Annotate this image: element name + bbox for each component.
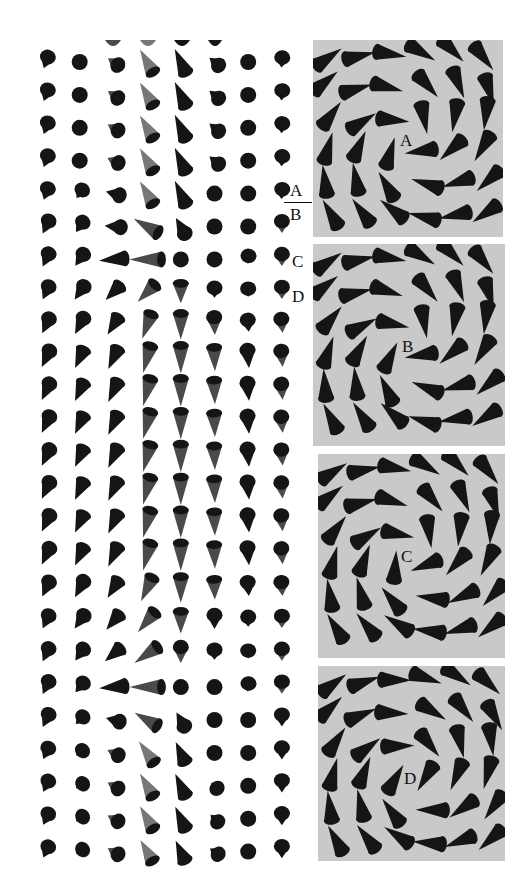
spin-cone [168,739,194,770]
spin-cone [240,811,256,827]
spin-cone [273,181,290,200]
vortex-cone [345,161,367,198]
vortex-cone [346,366,366,402]
spin-cone [35,505,60,535]
spin-cone [36,837,59,861]
spin-cone [173,341,189,373]
panel-label-c: C [401,548,412,565]
spin-cone [135,504,159,539]
vortex-cone [466,40,500,75]
spin-cone [173,607,189,633]
vortex-cone [471,162,503,197]
spin-cone [35,309,59,337]
spin-cone [173,572,189,602]
vortex-cone [468,332,500,370]
panel-label-d: D [404,770,416,787]
spin-cone [68,540,93,569]
spin-cone [130,212,166,242]
spin-cone [239,574,257,597]
spin-cone [132,604,164,638]
vortex-cone [406,409,444,434]
vortex-cone [450,511,470,547]
spin-cone [135,340,159,375]
vortex-cone [438,666,475,692]
vortex-cone [445,791,482,824]
vortex-cone [343,106,381,138]
vortex-cone [373,372,402,410]
vortex-cone [442,827,480,854]
spin-cone [206,474,223,503]
spin-cone [274,280,290,299]
vortex-cone [319,723,352,760]
spin-cone [240,712,256,728]
vortex-cone [321,544,345,581]
spin-cone [205,809,228,832]
vortex-cone [348,521,386,552]
spin-cone [173,506,189,538]
spin-cone [273,115,290,134]
vortex-cone [409,270,443,307]
spin-cone [104,841,129,864]
vortex-cone [440,544,475,580]
spin-cone [133,79,162,113]
vortex-cone [406,205,443,229]
vortex-cone [346,194,379,231]
vortex-cone [350,608,384,645]
spin-cone [273,442,291,467]
spin-cone [240,248,257,265]
spin-cone [240,676,257,693]
spin-cone [98,678,130,697]
vortex-cone [482,510,501,546]
spin-cone [239,507,257,533]
spin-cone [207,745,223,761]
vortex-cone [409,375,447,402]
spin-cone [72,806,94,828]
partial-cone [140,40,156,46]
spin-cone [35,606,58,632]
spin-cone [101,408,127,439]
vortex-cone [376,794,409,831]
vortex-cone [402,244,440,271]
vortex-cone [473,541,503,579]
vortex-cone [314,334,341,372]
spin-cone [273,343,291,368]
spin-cone [204,85,229,110]
vortex-cone [409,171,447,197]
spin-cone [35,277,58,303]
spin-cone [135,405,159,440]
side-label-d: D [292,288,304,305]
spin-cone [173,374,189,406]
spin-cone [240,219,256,235]
spin-cone [240,643,256,658]
spin-cone [101,539,127,570]
spin-cone [206,376,223,405]
spin-cone [133,144,162,178]
spin-cone [35,472,60,502]
vortex-cone [409,66,444,102]
spin-cone [68,507,93,536]
spin-cone [134,570,161,604]
vortex-cone [320,610,352,648]
vortex-cone [469,666,505,700]
spin-cone [69,639,94,666]
spin-cone [68,474,93,503]
spin-cone [133,46,162,80]
spin-cone [239,408,257,434]
spin-cone [71,740,93,762]
spin-cone [36,738,59,762]
vortex-cone [412,725,446,762]
spin-cone [68,605,94,633]
vortex-cone [349,575,374,612]
spin-cone [207,712,223,728]
vortex-cone [468,128,499,166]
vortex-cone [314,97,348,134]
vortex-cone [375,582,409,619]
vortex-cone [444,63,472,101]
spin-cone [35,440,60,470]
vortex-cone [476,754,500,791]
spin-cone [103,52,128,76]
spin-cone [207,251,223,267]
vortex-cone [414,480,448,517]
spin-cone [239,474,257,500]
side-label-c: C [292,253,303,270]
